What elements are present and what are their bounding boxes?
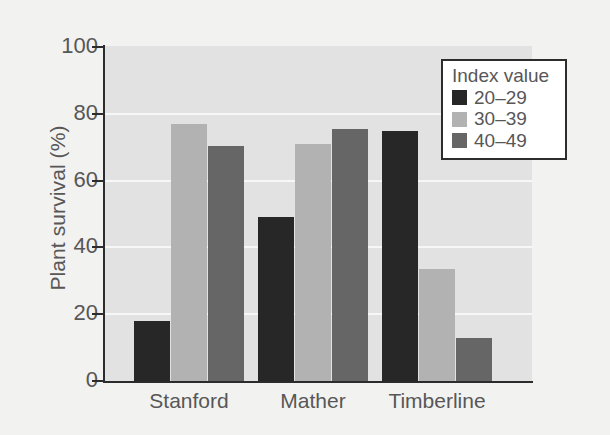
y-tick-label: 20 (44, 302, 98, 324)
y-tick-label: 0 (44, 369, 98, 391)
x-tick-label: Timberline (347, 389, 527, 413)
y-tick-label: 60 (44, 169, 98, 191)
legend-entry: 40–49 (452, 131, 557, 152)
legend-title: Index value (452, 66, 557, 87)
bar (295, 144, 331, 381)
y-axis-tick-labels: 020406080100 (30, 0, 98, 435)
legend-swatch-icon (452, 90, 467, 105)
y-tick-mark (92, 180, 104, 182)
legend-entries: 20–2930–3940–49 (452, 88, 557, 152)
legend-swatch-icon (452, 133, 467, 148)
bar-chart-figure: Plant survival (%) 020406080100 Stanford… (0, 0, 610, 435)
bar (419, 269, 455, 381)
y-tick-label: 80 (44, 102, 98, 124)
y-axis-line (103, 45, 105, 383)
y-tick-mark (92, 46, 104, 48)
y-tick-mark (92, 313, 104, 315)
bar (456, 338, 492, 381)
y-tick-mark (92, 380, 104, 382)
y-tick-mark (92, 113, 104, 115)
x-axis-line (103, 381, 533, 383)
legend-entry: 30–39 (452, 109, 557, 130)
bar (382, 131, 418, 382)
bar (332, 129, 368, 381)
legend-label: 30–39 (474, 109, 527, 130)
bar (258, 217, 294, 381)
legend-label: 40–49 (474, 131, 527, 152)
bar (171, 124, 207, 381)
y-tick-label: 40 (44, 235, 98, 257)
legend-label: 20–29 (474, 88, 527, 109)
y-tick-mark (92, 246, 104, 248)
legend-entry: 20–29 (452, 88, 557, 109)
legend: Index value 20–2930–3940–49 (441, 59, 567, 160)
bar (134, 321, 170, 381)
y-tick-label: 100 (44, 35, 98, 57)
bar (208, 146, 244, 381)
legend-swatch-icon (452, 112, 467, 127)
